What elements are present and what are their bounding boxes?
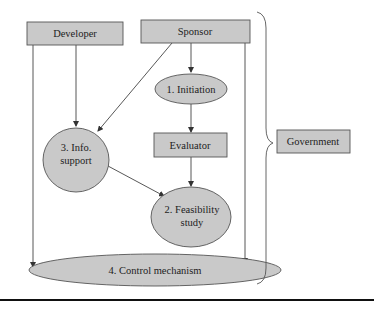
edge-info-feasibility — [108, 166, 164, 196]
bottom-rule — [0, 299, 374, 301]
node-government: Government — [277, 130, 350, 153]
developer-label: Developer — [53, 28, 97, 39]
sponsor-label: Sponsor — [178, 26, 213, 37]
node-feasibility: 2. Feasibility study — [151, 187, 231, 247]
feasibility-label-line2: study — [181, 217, 205, 228]
node-info-support: 3. Info. support — [43, 128, 109, 192]
diagram-canvas: Developer Sponsor 1. Initiation Evaluato… — [0, 0, 374, 309]
node-control: 4. Control mechanism — [29, 254, 281, 286]
control-label: 4. Control mechanism — [108, 265, 201, 276]
grouping-brace — [257, 12, 273, 284]
node-evaluator: Evaluator — [154, 133, 227, 157]
node-sponsor: Sponsor — [141, 20, 250, 43]
feasibility-label-line1: 2. Feasibility — [165, 204, 221, 215]
info-support-label-line2: support — [60, 155, 92, 166]
node-developer: Developer — [27, 22, 123, 45]
evaluator-label: Evaluator — [170, 140, 211, 151]
initiation-label: 1. Initiation — [167, 84, 217, 95]
info-support-label-line1: 3. Info. — [61, 142, 92, 153]
government-label: Government — [287, 136, 340, 147]
node-initiation: 1. Initiation — [155, 74, 227, 104]
